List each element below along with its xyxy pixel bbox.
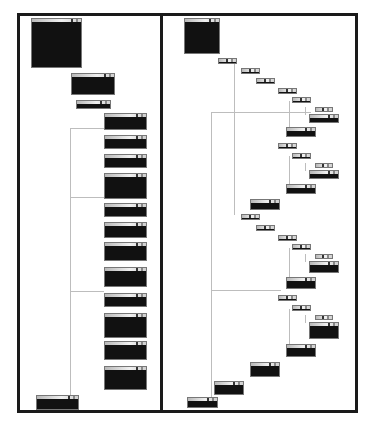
diagram-node <box>184 18 220 54</box>
node-port-icon <box>136 174 138 177</box>
node-control-icon <box>141 314 143 317</box>
node-control-icon <box>305 98 307 101</box>
node-control-icon <box>327 316 329 319</box>
connector-line <box>289 248 290 278</box>
diagram-node <box>309 170 339 179</box>
node-header <box>287 278 315 281</box>
node-header <box>185 19 219 22</box>
diagram-node <box>278 235 297 241</box>
node-header <box>316 164 332 167</box>
connector-line <box>70 128 104 129</box>
node-control-icon <box>141 367 143 370</box>
diagram-node <box>286 184 316 194</box>
node-control-icon <box>109 74 111 77</box>
node-port-icon <box>322 164 324 167</box>
diagram-node <box>71 73 115 95</box>
node-control-icon <box>141 174 143 177</box>
node-port-icon <box>286 236 288 239</box>
node-header <box>77 101 110 104</box>
node-port-icon <box>300 154 302 157</box>
node-control-icon <box>141 294 143 297</box>
diagram-node <box>214 381 244 395</box>
node-port-icon <box>269 363 271 366</box>
node-port-icon <box>322 316 324 319</box>
diagram-node <box>315 107 333 112</box>
node-header <box>105 204 146 207</box>
connector-line <box>289 156 290 185</box>
node-header <box>242 69 259 72</box>
node-port-icon <box>328 262 330 265</box>
node-header <box>242 215 259 218</box>
diagram-node <box>241 68 260 74</box>
diagram-node <box>104 113 147 130</box>
diagram-node <box>241 214 260 220</box>
node-control-icon <box>254 215 256 218</box>
node-control-icon <box>333 323 335 326</box>
diagram-node <box>315 254 333 259</box>
connector-line <box>234 62 235 215</box>
node-header <box>310 323 338 326</box>
node-port-icon <box>68 396 70 399</box>
diagram-node <box>278 295 297 301</box>
diagram-node <box>104 203 147 217</box>
diagram-node <box>104 154 147 168</box>
node-port-icon <box>264 79 266 82</box>
node-port-icon <box>269 200 271 203</box>
node-header <box>188 398 217 401</box>
connector-line <box>211 112 311 113</box>
node-header <box>105 268 146 271</box>
node-control-icon <box>141 268 143 271</box>
node-header <box>310 171 338 174</box>
node-port-icon <box>300 245 302 248</box>
node-port-icon <box>328 171 330 174</box>
connector-line <box>70 197 104 198</box>
node-header <box>251 363 279 366</box>
node-header <box>72 74 114 77</box>
node-control-icon <box>305 154 307 157</box>
diagram-node <box>187 397 218 408</box>
node-header <box>279 296 296 299</box>
node-header <box>215 382 243 385</box>
node-header <box>219 59 236 62</box>
node-control-icon <box>73 396 75 399</box>
node-header <box>105 294 146 297</box>
node-control-icon <box>333 171 335 174</box>
node-port-icon <box>305 345 307 348</box>
diagram-node <box>256 225 275 231</box>
node-header <box>105 155 146 158</box>
node-port-icon <box>249 215 251 218</box>
diagram-node <box>286 127 316 137</box>
connector-line <box>211 290 281 291</box>
diagram-node <box>76 100 111 109</box>
node-control-icon <box>310 278 312 281</box>
node-header <box>257 226 274 229</box>
diagram-node <box>292 244 311 250</box>
node-port-icon <box>136 243 138 246</box>
diagram-node <box>104 341 147 360</box>
diagram-node <box>292 305 311 311</box>
node-control-icon <box>274 200 276 203</box>
node-control-icon <box>327 108 329 111</box>
diagram-node <box>104 366 147 390</box>
node-port-icon <box>136 223 138 226</box>
node-control-icon <box>269 79 271 82</box>
connector-line <box>70 128 71 396</box>
node-control-icon <box>141 243 143 246</box>
node-port-icon <box>305 278 307 281</box>
node-header <box>310 115 338 118</box>
diagram-node <box>315 163 333 168</box>
node-port-icon <box>328 115 330 118</box>
node-header <box>251 200 279 203</box>
node-header <box>105 114 146 117</box>
node-control-icon <box>291 89 293 92</box>
node-port-icon <box>328 323 330 326</box>
diagram-node <box>104 135 147 149</box>
node-port-icon <box>136 204 138 207</box>
diagram-node <box>104 242 147 261</box>
node-control-icon <box>214 19 216 22</box>
connector-line <box>305 107 306 115</box>
node-port-icon <box>322 255 324 258</box>
node-control-icon <box>327 164 329 167</box>
diagram-node <box>104 293 147 307</box>
node-header <box>279 89 296 92</box>
